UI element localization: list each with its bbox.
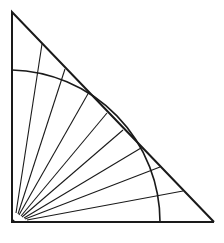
- ray-line-6: [24, 148, 141, 218]
- ray-line-7: [25, 167, 160, 219]
- diagram-canvas: [0, 0, 224, 243]
- triangle-fan-diagram: [0, 0, 224, 243]
- corner-vertex-dot: [11, 219, 14, 222]
- ray-line-3: [19, 92, 89, 215]
- ray-line-5: [22, 130, 123, 217]
- ray-line-1: [16, 44, 42, 213]
